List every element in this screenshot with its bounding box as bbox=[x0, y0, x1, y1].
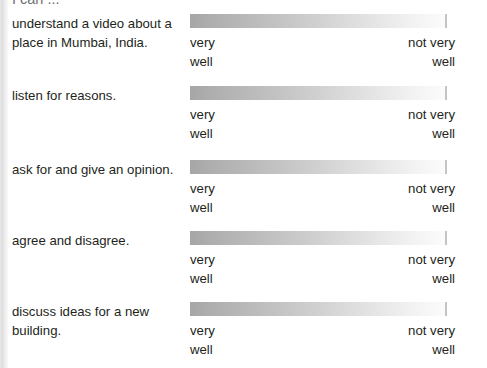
rating-scale-labels: very well not very well bbox=[190, 250, 455, 288]
assessment-statement: agree and disagree. bbox=[12, 231, 184, 250]
scale-label-low: very well bbox=[190, 321, 215, 359]
scale-label-low: very well bbox=[190, 250, 215, 288]
rating-scale-labels: very well not very well bbox=[190, 105, 455, 143]
worksheet-page: I can ... understand a video about a pla… bbox=[0, 0, 487, 368]
scale-label-high: not very well bbox=[408, 250, 455, 288]
rating-gradient-bar[interactable] bbox=[190, 231, 447, 245]
rating-gradient-bar[interactable] bbox=[190, 86, 447, 100]
page-heading-text: I can ... bbox=[12, 0, 212, 5]
assessment-statement: listen for reasons. bbox=[12, 86, 184, 105]
scale-label-high: not very well bbox=[408, 321, 455, 359]
rating-scale-labels: very well not very well bbox=[190, 321, 455, 359]
scale-label-low: very well bbox=[190, 105, 215, 143]
rating-scale[interactable]: very well not very well bbox=[190, 302, 455, 359]
rating-gradient-bar[interactable] bbox=[190, 14, 447, 28]
scale-label-high: not very well bbox=[408, 33, 455, 71]
rating-scale[interactable]: very well not very well bbox=[190, 86, 455, 143]
rating-scale[interactable]: very well not very well bbox=[190, 231, 455, 288]
rating-scale-labels: very well not very well bbox=[190, 33, 455, 71]
rating-scale-labels: very well not very well bbox=[190, 179, 455, 217]
rating-gradient-bar[interactable] bbox=[190, 160, 447, 174]
scale-label-high: not very well bbox=[408, 105, 455, 143]
assessment-statement: discuss ideas for a new building. bbox=[12, 302, 184, 340]
assessment-statement: ask for and give an opinion. bbox=[12, 160, 184, 179]
assessment-statement: understand a video about a place in Mumb… bbox=[12, 14, 184, 52]
rating-scale[interactable]: very well not very well bbox=[190, 160, 455, 217]
scale-label-low: very well bbox=[190, 33, 215, 71]
scale-label-high: not very well bbox=[408, 179, 455, 217]
scale-label-low: very well bbox=[190, 179, 215, 217]
rating-scale[interactable]: very well not very well bbox=[190, 14, 455, 71]
rating-gradient-bar[interactable] bbox=[190, 302, 447, 316]
page-heading: I can ... bbox=[12, 0, 212, 5]
